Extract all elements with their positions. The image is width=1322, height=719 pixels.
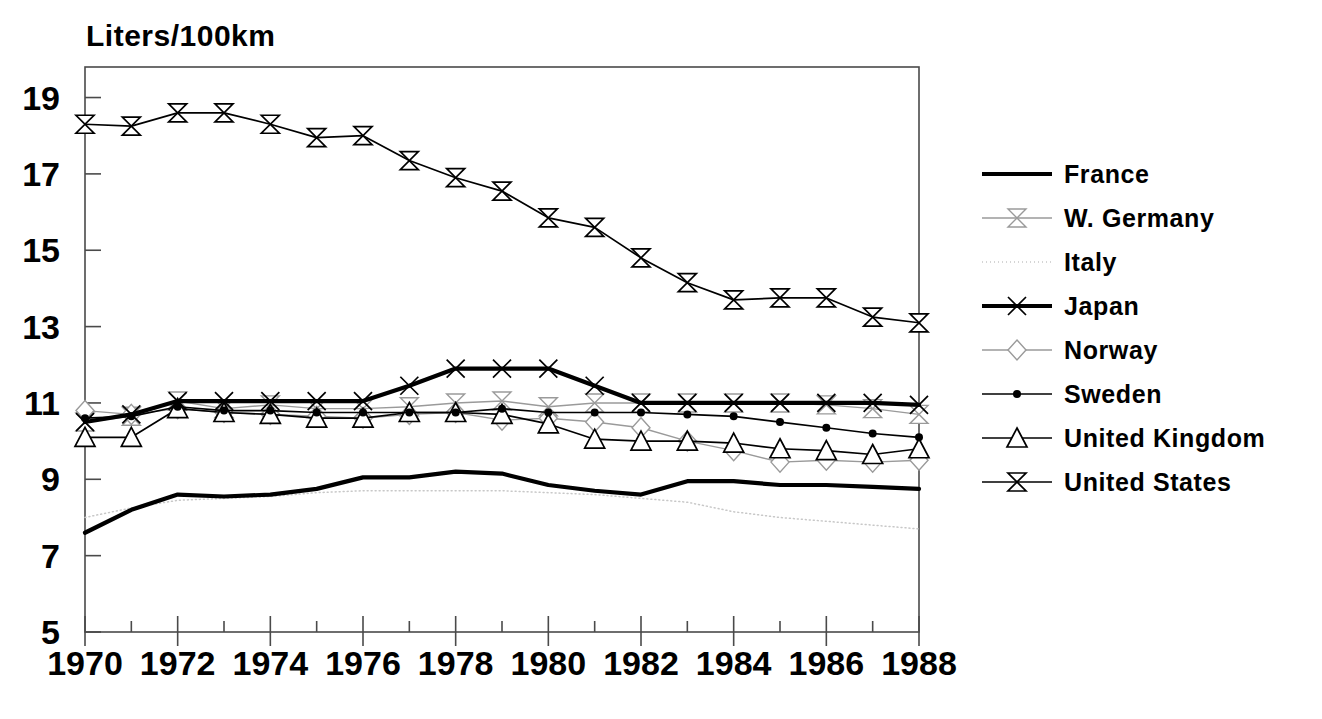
legend-item[interactable]: Norway xyxy=(978,328,1318,372)
chart-legend: FranceW. GermanyItalyJapanNorwaySwedenUn… xyxy=(978,152,1318,504)
legend-item[interactable]: Italy xyxy=(978,240,1318,284)
legend-label: Japan xyxy=(1056,292,1139,321)
chart-container: Liters/100km 5791113151719 1970197219741… xyxy=(0,0,1322,719)
marker-x xyxy=(586,377,604,395)
legend-label: United States xyxy=(1056,468,1232,497)
legend-label: W. Germany xyxy=(1056,204,1215,233)
marker-dot xyxy=(266,407,274,415)
legend-label: France xyxy=(1056,160,1150,189)
legend-label: United Kingdom xyxy=(1056,424,1265,453)
legend-item[interactable]: Sweden xyxy=(978,372,1318,416)
marker-dot xyxy=(220,407,228,415)
series-france xyxy=(85,472,919,533)
marker-dot xyxy=(869,429,877,437)
marker-dot xyxy=(313,408,321,416)
marker-dot xyxy=(683,410,691,418)
legend-swatch-none-icon xyxy=(978,240,1056,284)
legend-label: Italy xyxy=(1056,248,1117,277)
legend-item[interactable]: United States xyxy=(978,460,1318,504)
marker-bowtie xyxy=(400,152,418,170)
legend-swatch-none-icon xyxy=(978,152,1056,196)
series-line xyxy=(85,472,919,533)
marker-dot xyxy=(637,408,645,416)
marker-dot xyxy=(452,408,460,416)
series-line xyxy=(85,113,919,323)
legend-swatch-x-icon xyxy=(978,284,1056,328)
marker-bowtie xyxy=(447,169,465,187)
series-united-states xyxy=(76,104,928,332)
plot-frame xyxy=(85,67,919,632)
marker-bowtie xyxy=(910,405,928,423)
legend-item[interactable]: Japan xyxy=(978,284,1318,328)
marker-dot xyxy=(776,418,784,426)
marker-bowtie xyxy=(632,249,650,267)
marker-bowtie xyxy=(493,182,511,200)
legend-label: Sweden xyxy=(1056,380,1162,409)
legend-swatch-dot-icon xyxy=(978,372,1056,416)
legend-swatch-diamond-icon xyxy=(978,328,1056,372)
marker-dot xyxy=(498,405,506,413)
marker-dot xyxy=(915,433,923,441)
legend-item[interactable]: W. Germany xyxy=(978,196,1318,240)
marker-dot xyxy=(359,408,367,416)
marker-bowtie xyxy=(678,274,696,292)
marker-dot xyxy=(1013,390,1021,398)
marker-bowtie xyxy=(261,115,279,133)
legend-swatch-triangle-icon xyxy=(978,416,1056,460)
marker-dot xyxy=(591,408,599,416)
marker-dot xyxy=(730,412,738,420)
legend-swatch-bowtie-icon xyxy=(978,196,1056,240)
marker-bowtie xyxy=(586,218,604,236)
marker-dot xyxy=(405,408,413,416)
marker-bowtie xyxy=(539,209,557,227)
legend-label: Norway xyxy=(1056,336,1158,365)
legend-item[interactable]: France xyxy=(978,152,1318,196)
legend-swatch-bowtie-icon xyxy=(978,460,1056,504)
marker-triangle xyxy=(909,439,929,458)
marker-dot xyxy=(822,424,830,432)
marker-diamond xyxy=(1008,340,1026,360)
marker-dot xyxy=(544,408,552,416)
legend-item[interactable]: United Kingdom xyxy=(978,416,1318,460)
